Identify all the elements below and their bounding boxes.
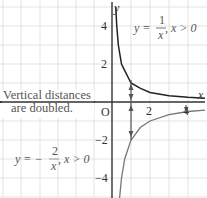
x-axis-label: x xyxy=(197,88,204,102)
x-tick-4: 4 xyxy=(183,104,189,118)
y-tick-neg2: −2 xyxy=(95,133,108,147)
y-tick-neg4: −4 xyxy=(95,171,108,185)
curve1-label-lhs: y = xyxy=(133,21,150,35)
note-line-2: are doubled. xyxy=(11,101,73,115)
curve1-label-den: x xyxy=(157,28,164,42)
curve2-label-lhs: y = − xyxy=(14,152,43,166)
note-line-1: Vertical distances xyxy=(3,88,91,102)
origin-label: O xyxy=(101,105,110,119)
curve2-label-cond: , x > 0 xyxy=(58,152,89,166)
arrow-head-icon xyxy=(129,84,134,90)
y-tick-2: 2 xyxy=(101,57,107,71)
curve2-label-den: x xyxy=(50,159,57,173)
x-tick-2: 2 xyxy=(146,104,152,118)
arrow-head-icon xyxy=(129,94,134,100)
graph: 4 2 −2 −4 2 4 O y x y = 1 x , x > 0 Vert… xyxy=(0,0,207,198)
arrow-head-icon xyxy=(129,131,134,137)
y-axis-label: y xyxy=(113,1,120,15)
curve-negative-double-reciprocal xyxy=(120,110,205,198)
arrow-head-icon xyxy=(129,105,134,111)
y-tick-4: 4 xyxy=(101,19,107,33)
curve1-label-cond: , x > 0 xyxy=(165,21,196,35)
